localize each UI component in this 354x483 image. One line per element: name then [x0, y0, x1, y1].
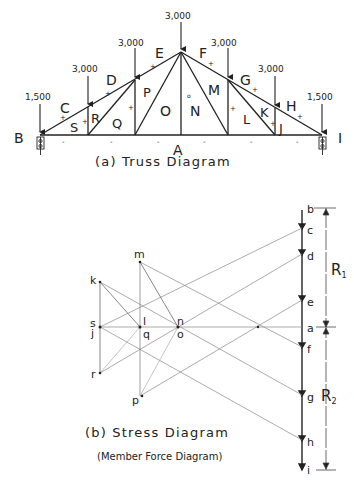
load-label: 3,000	[165, 11, 191, 21]
point-b: b	[307, 203, 314, 216]
point-l: l	[143, 315, 146, 328]
left-support-icon	[37, 137, 44, 155]
diagonal-2	[135, 52, 181, 135]
reaction-r1: R1	[331, 261, 347, 280]
load-label: 3,000	[118, 38, 144, 48]
svg-text:-: -	[62, 138, 65, 146]
load-label: 1,500	[307, 92, 333, 102]
space-label-n: N	[190, 103, 200, 119]
space-label-o: O	[160, 103, 171, 119]
reaction-dimensions	[314, 208, 336, 470]
point-d: d	[307, 250, 314, 263]
space-label-r: R	[91, 111, 100, 126]
support-label-i: I	[338, 130, 342, 146]
member-force-lines	[100, 228, 302, 440]
svg-text:-: -	[296, 138, 299, 146]
point-m: m	[134, 248, 145, 261]
load-label: 3,000	[72, 64, 98, 74]
right-support-icon	[319, 137, 326, 155]
svg-text:-: -	[110, 138, 113, 146]
space-label-j: J	[278, 121, 283, 136]
point-f: f	[307, 343, 312, 356]
space-label-f: F	[199, 45, 207, 61]
truss-diagram-caption: (a) Truss Diagram	[95, 154, 231, 169]
load-line	[299, 210, 305, 470]
svg-text:+: +	[150, 63, 156, 71]
space-label-q: Q	[112, 116, 122, 131]
space-label-e: E	[155, 45, 164, 61]
svg-text:+: +	[270, 120, 276, 128]
point-o: o	[177, 328, 184, 341]
load-label: 1,500	[25, 92, 51, 102]
space-label-p: P	[143, 85, 151, 100]
stress-diagram-subcaption: (Member Force Diagram)	[97, 451, 222, 462]
stress-diagram-caption: (b) Stress Diagram	[85, 425, 229, 440]
svg-text:+: +	[230, 105, 236, 113]
point-g: g	[307, 391, 314, 404]
space-label-d: D	[106, 72, 117, 88]
space-label-m: M	[208, 82, 220, 98]
svg-text:-: -	[203, 138, 206, 146]
load-label: 3,000	[211, 38, 237, 48]
point-r: r	[91, 368, 96, 381]
point-j: j	[90, 327, 94, 340]
space-label-g: G	[240, 72, 251, 88]
point-h: h	[307, 436, 314, 449]
svg-text:-: -	[250, 138, 253, 146]
point-a: a	[307, 322, 314, 335]
space-label-k: K	[260, 105, 269, 120]
diagram-canvas: 1,500 3,000 3,000 3,000 3,000 3,000 1,50…	[0, 0, 354, 483]
space-label-l: L	[243, 112, 251, 127]
svg-text:o: o	[187, 92, 191, 99]
space-label-h: H	[286, 98, 297, 114]
svg-text:-: -	[157, 138, 160, 146]
point-e: e	[307, 296, 314, 309]
svg-text:+: +	[297, 113, 303, 121]
svg-text:+: +	[128, 104, 134, 112]
svg-text:+: +	[60, 114, 66, 122]
space-label-s: S	[70, 120, 78, 135]
svg-text:+: +	[252, 86, 258, 94]
point-k: k	[90, 274, 97, 287]
point-c: c	[307, 224, 313, 237]
support-label-b: B	[14, 130, 24, 146]
svg-text:+: +	[105, 90, 111, 98]
svg-text:+: +	[208, 60, 214, 68]
point-n: n	[177, 315, 184, 328]
reaction-r2: R2	[321, 387, 337, 406]
point-p: p	[132, 394, 139, 407]
point-q: q	[143, 328, 150, 341]
point-i: i	[307, 464, 310, 477]
load-label: 3,000	[258, 64, 284, 74]
svg-text:+: +	[82, 118, 88, 126]
